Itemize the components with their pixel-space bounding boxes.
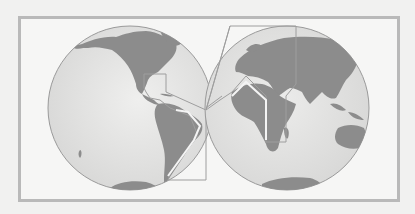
western-hemisphere-globe	[48, 26, 212, 192]
eastern-hemisphere-globe	[205, 26, 369, 190]
world-map-illustration	[0, 0, 415, 214]
